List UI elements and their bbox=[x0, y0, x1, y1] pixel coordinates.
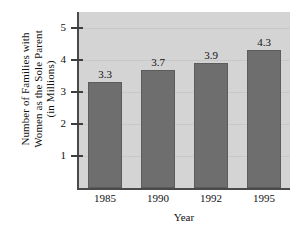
y-axis-tick-label: 3 bbox=[44, 85, 66, 97]
y-axis-tick-label: 1 bbox=[44, 149, 66, 161]
bar-value-label: 3.9 bbox=[186, 49, 236, 61]
y-axis-tick-label: 4 bbox=[44, 53, 66, 65]
bar bbox=[141, 70, 175, 188]
y-axis-line bbox=[77, 12, 79, 190]
bar bbox=[194, 63, 228, 188]
y-axis-tick-label: 2 bbox=[44, 117, 66, 129]
gridline bbox=[78, 28, 290, 29]
bar-value-label: 4.3 bbox=[239, 36, 289, 48]
bar-value-label: 3.3 bbox=[80, 68, 130, 80]
y-axis-title-line-2: Women as the Sole Parent bbox=[32, 30, 45, 148]
bar-value-label: 3.7 bbox=[133, 56, 183, 68]
bar bbox=[247, 50, 281, 188]
bar-chart: Number of Families with Women as the Sol… bbox=[0, 0, 306, 241]
y-axis-tick-mark bbox=[71, 59, 83, 61]
x-axis-line bbox=[77, 188, 290, 190]
x-axis-title: Year bbox=[78, 211, 290, 223]
x-axis-tick-label: 1990 bbox=[131, 192, 185, 204]
y-axis-tick-mark bbox=[71, 27, 83, 29]
y-axis-tick-mark bbox=[71, 155, 83, 157]
x-axis-tick-label: 1995 bbox=[237, 192, 291, 204]
y-axis-tick-label: 5 bbox=[44, 21, 66, 33]
x-axis-tick-label: 1992 bbox=[184, 192, 238, 204]
y-axis-tick-mark bbox=[71, 91, 83, 93]
x-axis-tick-label: 1985 bbox=[78, 192, 132, 204]
bar bbox=[88, 82, 122, 188]
y-axis-title-line-1: Number of Families with bbox=[19, 32, 32, 145]
y-axis-tick-mark bbox=[71, 123, 83, 125]
